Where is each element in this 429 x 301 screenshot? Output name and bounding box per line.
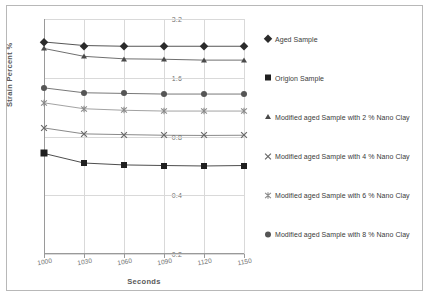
legend-marker [262,111,273,122]
gridline-vertical [244,19,245,254]
gridline-horizontal [44,254,244,255]
series-line [44,103,244,111]
legend-item[interactable]: Origion Sample [262,72,324,83]
legend-label: Modified aged Sample with 2 % Nano Clay [275,113,410,120]
marker-circle-icon [265,231,271,237]
legend-label: Aged Sample [275,35,318,42]
series-lines [44,19,244,254]
legend-marker [262,72,273,83]
legend-item[interactable]: Modified aged Sample with 6 % Nano Clay [262,190,410,201]
legend-item[interactable]: Modified aged Sample with 2 % Nano Clay [262,111,410,122]
marker-diamond-icon [264,35,272,43]
chart-legend: Aged SampleOrigion SampleModified aged S… [262,19,422,254]
legend-marker [262,190,273,201]
legend-item[interactable]: Modified aged Sample with 4 % Nano Clay [262,151,410,162]
x-axis-title: Seconds [44,277,244,286]
series-line [44,153,244,166]
legend-item[interactable]: Aged Sample [262,33,318,44]
marker-x-icon [264,153,271,160]
legend-marker [262,229,273,240]
y-axis-title: Strain Percent % [5,43,14,107]
legend-item[interactable]: Modified aged Sample with 8 % Nano Clay [262,229,410,240]
legend-label: Modified aged Sample with 4 % Nano Clay [275,153,410,160]
legend-label: Modified aged Sample with 8 % Nano Clay [275,231,410,238]
chart-figure: Strain Percent % 0.20.40.81.63.2 1000103… [0,0,429,301]
marker-triangle-icon [265,114,271,119]
plot-area [44,19,244,254]
series-line [44,88,244,94]
series-line [44,128,244,136]
legend-label: Modified aged Sample with 6 % Nano Clay [275,192,410,199]
legend-label: Origion Sample [275,74,324,81]
series-line [44,48,244,60]
marker-square-icon [265,75,271,81]
marker-star-icon [264,192,271,199]
legend-marker [262,151,273,162]
series-line [44,42,244,46]
legend-marker [262,33,273,44]
